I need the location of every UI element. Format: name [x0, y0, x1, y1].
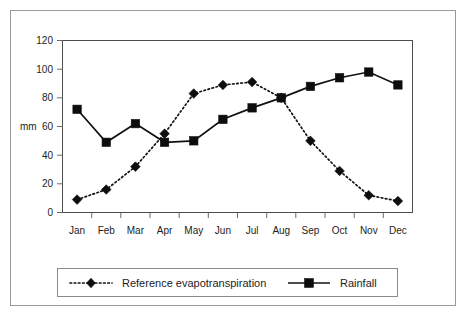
x-label-nov: Nov [360, 225, 378, 236]
legend-entry-rainfall: Rainfall [288, 277, 377, 289]
data-point-jul [248, 104, 256, 112]
y-tick-label-40: 40 [42, 150, 54, 161]
y-tick-label-60: 60 [42, 121, 54, 132]
data-point-aug [277, 94, 285, 102]
series-line-evapotranspiration [77, 82, 398, 201]
data-point-jul [247, 77, 257, 87]
y-axis-ticks: 0 20 40 60 80 100 120 [36, 35, 62, 218]
diamond-marker-icon [87, 278, 96, 288]
x-label-sep: Sep [302, 225, 320, 236]
data-point-may [190, 137, 198, 145]
y-tick-label-80: 80 [42, 92, 54, 103]
y-tick-label-0: 0 [47, 207, 53, 218]
x-label-aug: Aug [272, 225, 290, 236]
data-point-feb [102, 138, 110, 146]
y-axis-title: mm [20, 121, 37, 132]
legend-entry-evapotranspiration: Reference evapotranspiration [70, 277, 266, 289]
x-axis-month-labels: Jan Feb Mar Apr May Jun Jul Aug Sep Oct … [69, 225, 407, 236]
data-point-dec [394, 81, 402, 89]
y-tick-label-100: 100 [36, 64, 53, 75]
x-label-jun: Jun [215, 225, 231, 236]
legend-label-rainfall: Rainfall [340, 277, 377, 289]
x-label-apr: Apr [157, 225, 173, 236]
data-point-nov [365, 68, 373, 76]
caption-sliver [8, 313, 460, 320]
series-line-rainfall [77, 72, 398, 142]
data-point-mar [131, 119, 139, 127]
data-point-dec [393, 196, 403, 206]
plot-area-border [63, 41, 413, 213]
x-label-jul: Jul [246, 225, 259, 236]
x-label-oct: Oct [332, 225, 348, 236]
x-axis-ticks [92, 213, 384, 219]
data-point-sep [306, 82, 314, 90]
y-tick-label-20: 20 [42, 178, 54, 189]
data-point-jun [219, 115, 227, 123]
data-point-apr [160, 138, 168, 146]
data-point-jun [218, 80, 228, 90]
legend-label-evapotranspiration: Reference evapotranspiration [122, 277, 266, 289]
x-label-jan: Jan [69, 225, 85, 236]
y-tick-label-120: 120 [36, 35, 53, 46]
data-point-oct [335, 74, 343, 82]
data-point-jan [72, 195, 82, 205]
series-markers-rainfall [73, 68, 402, 147]
data-point-jan [73, 105, 81, 113]
figure-container: 0 20 40 60 80 100 120 mm [0, 0, 467, 321]
chart-canvas: 0 20 40 60 80 100 120 mm [0, 0, 467, 321]
square-marker-icon [305, 279, 314, 288]
x-label-dec: Dec [389, 225, 407, 236]
x-label-mar: Mar [127, 225, 145, 236]
x-label-may: May [184, 225, 203, 236]
series-markers-evapotranspiration [72, 77, 402, 206]
x-label-feb: Feb [98, 225, 116, 236]
